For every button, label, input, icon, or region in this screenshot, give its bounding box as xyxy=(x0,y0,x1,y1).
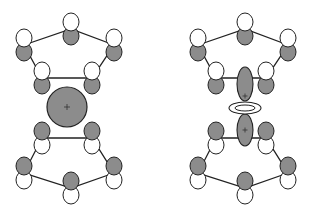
right-sandwich-figure xyxy=(190,13,296,204)
metallocene-orbital-diagram xyxy=(0,0,312,212)
left-sandwich-figure xyxy=(16,13,122,204)
metal-s-orbital xyxy=(47,87,87,127)
metal-dz2-orbital xyxy=(229,67,261,146)
